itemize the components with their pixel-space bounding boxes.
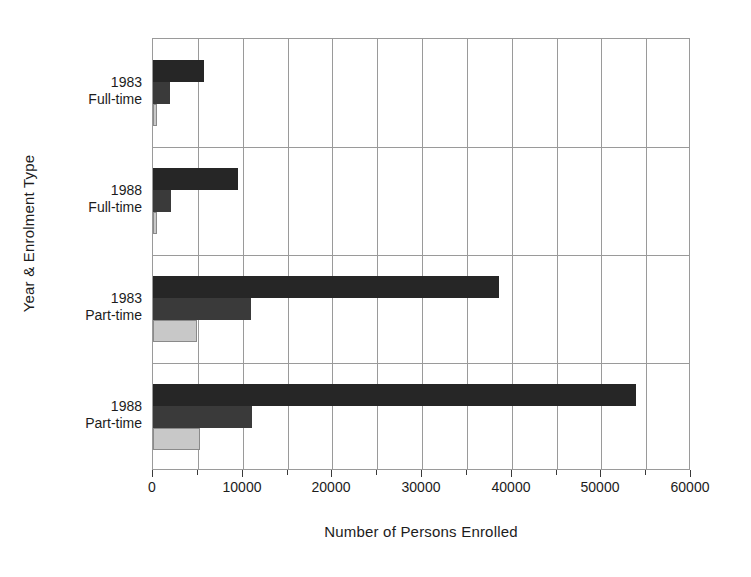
bar bbox=[153, 384, 636, 406]
x-tick-minor bbox=[197, 470, 198, 475]
x-tick-major bbox=[600, 470, 601, 477]
x-tick-major bbox=[331, 470, 332, 477]
bar bbox=[153, 320, 197, 342]
y-category-label-type: Part-time bbox=[2, 307, 142, 324]
bar-chart: Year & Enrolment Type Number of Persons … bbox=[0, 0, 751, 577]
y-category-label-year: 1988 bbox=[111, 182, 142, 198]
x-tick-label: 30000 bbox=[381, 479, 461, 495]
bar bbox=[153, 60, 204, 82]
gridline-horizontal bbox=[153, 255, 689, 256]
x-tick-minor bbox=[376, 470, 377, 475]
x-tick-minor bbox=[287, 470, 288, 475]
y-category-label-year: 1988 bbox=[111, 398, 142, 414]
bar bbox=[153, 190, 171, 212]
x-tick-label: 60000 bbox=[650, 479, 730, 495]
bar bbox=[153, 298, 251, 320]
y-category-label: 1988Part-time bbox=[2, 398, 142, 432]
bar bbox=[153, 82, 170, 104]
x-tick-major bbox=[152, 470, 153, 477]
y-category-label-type: Full-time bbox=[2, 91, 142, 108]
y-category-label-year: 1983 bbox=[111, 74, 142, 90]
plot-area bbox=[152, 38, 690, 470]
x-tick-minor bbox=[556, 470, 557, 475]
x-tick-label: 50000 bbox=[560, 479, 640, 495]
y-category-label-type: Full-time bbox=[2, 199, 142, 216]
y-category-label: 1983Part-time bbox=[2, 290, 142, 324]
y-category-label: 1988Full-time bbox=[2, 182, 142, 216]
x-tick-major bbox=[511, 470, 512, 477]
x-tick-minor bbox=[466, 470, 467, 475]
bar bbox=[153, 406, 252, 428]
y-category-label-type: Part-time bbox=[2, 415, 142, 432]
y-category-label-year: 1983 bbox=[111, 290, 142, 306]
x-tick-major bbox=[690, 470, 691, 477]
x-tick-label: 0 bbox=[112, 479, 192, 495]
bar bbox=[153, 428, 200, 450]
x-tick-label: 20000 bbox=[291, 479, 371, 495]
bar bbox=[153, 276, 499, 298]
bar bbox=[153, 212, 157, 234]
x-tick-major bbox=[242, 470, 243, 477]
y-category-label: 1983Full-time bbox=[2, 74, 142, 108]
gridline-horizontal bbox=[153, 147, 689, 148]
bar bbox=[153, 168, 238, 190]
x-tick-major bbox=[421, 470, 422, 477]
x-tick-label: 40000 bbox=[471, 479, 551, 495]
gridline-vertical bbox=[646, 39, 647, 469]
x-tick-label: 10000 bbox=[202, 479, 282, 495]
x-axis-title: Number of Persons Enrolled bbox=[152, 523, 690, 540]
bar bbox=[153, 104, 157, 126]
x-tick-minor bbox=[645, 470, 646, 475]
gridline-horizontal bbox=[153, 363, 689, 364]
